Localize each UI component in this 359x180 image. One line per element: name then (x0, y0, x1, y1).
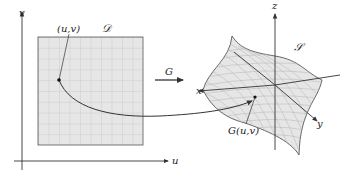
v-axis-label: v (19, 8, 25, 18)
u-axis-label: u (172, 156, 178, 166)
y-axis-label: y (317, 119, 323, 129)
point-uv (57, 78, 61, 82)
surface (200, 36, 322, 155)
domain-region (38, 37, 143, 145)
surface-label: 𝒮 (294, 42, 303, 53)
point-G-uv (253, 95, 256, 98)
diagram-canvas (0, 0, 359, 180)
image-point-label: G(u,v) (228, 126, 259, 136)
x-axis-label: x (196, 86, 202, 96)
domain-label: 𝒟 (102, 23, 111, 34)
map-label: G (165, 67, 173, 77)
z-axis-label: z (272, 1, 277, 11)
point-label: (u,v) (57, 24, 80, 34)
